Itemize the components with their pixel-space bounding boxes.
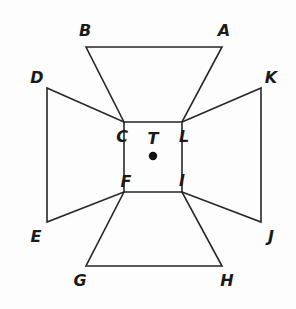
shape-right-trapezoid	[182, 88, 261, 222]
center-point-label: T	[148, 131, 159, 147]
vertex-label-j: J	[268, 229, 274, 245]
vertex-label-g: G	[73, 273, 86, 289]
vertex-label-l: L	[179, 129, 189, 145]
vertex-label-d: D	[30, 70, 43, 86]
vertex-label-a: A	[218, 23, 230, 39]
vertex-label-k: K	[265, 70, 277, 86]
shape-top-trapezoid	[86, 47, 222, 122]
shape-left-trapezoid	[47, 88, 124, 222]
shape-bottom-trapezoid	[86, 192, 222, 266]
vertex-label-e: E	[31, 229, 42, 245]
vertex-label-h: H	[220, 273, 233, 289]
vertex-label-c: C	[116, 129, 128, 145]
center-point-dot	[149, 152, 157, 160]
vertex-label-b: B	[79, 23, 91, 39]
vertex-label-f: F	[121, 174, 132, 190]
geometry-diagram: A B C D E F G H I J K L T	[0, 0, 296, 309]
diagram-canvas	[0, 0, 296, 309]
vertex-label-i: I	[179, 173, 185, 189]
